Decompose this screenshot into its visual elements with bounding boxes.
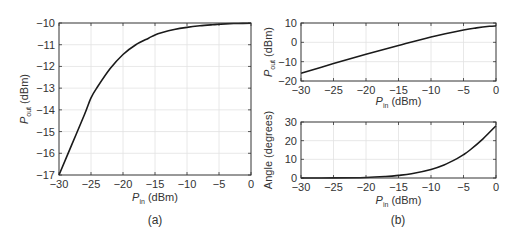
x-tick-label: −5 xyxy=(457,181,470,193)
y-tick-label: −14 xyxy=(36,104,55,116)
x-tick-label: −25 xyxy=(82,178,101,190)
y-tick-label: 30 xyxy=(285,116,297,128)
y-tick-label: 20 xyxy=(285,135,297,147)
y-tick-label: −16 xyxy=(36,147,55,159)
x-tick-label: −15 xyxy=(389,181,408,193)
x-tick-label: −15 xyxy=(146,178,165,190)
x-tick-label: −5 xyxy=(213,178,226,190)
x-tick-label: −20 xyxy=(114,178,133,190)
y-tick-label: 0 xyxy=(291,36,297,48)
y-tick-label: −12 xyxy=(36,60,55,72)
x-tick-label: −5 xyxy=(457,84,470,96)
x-axis-label: Pin (dBm) xyxy=(376,95,422,109)
y-tick-label: −11 xyxy=(37,39,55,51)
y-tick-label: 10 xyxy=(285,153,297,165)
chart-b-top: −30−25−20−15−10−50−20−10010Pin (dBm)Pout… xyxy=(262,17,499,109)
y-tick-label: −13 xyxy=(36,82,55,94)
x-tick-label: 0 xyxy=(248,178,254,190)
chart-b-bottom: −30−25−20−15−10−500102030Pin (dBm)Angle … xyxy=(262,111,499,227)
caption-b: (b) xyxy=(391,213,406,227)
x-axis-label: Pin (dBm) xyxy=(132,191,178,205)
y-axis-label: Pout (dBm) xyxy=(262,27,276,77)
x-tick-label: −10 xyxy=(422,181,441,193)
figure: −30−25−20−15−10−50−17−16−15−14−13−12−11−… xyxy=(0,0,516,240)
x-tick-label: 0 xyxy=(493,181,499,193)
y-tick-label: −20 xyxy=(278,75,297,87)
y-tick-label: −10 xyxy=(278,56,297,68)
x-tick-label: −10 xyxy=(422,84,441,96)
x-tick-label: −20 xyxy=(357,181,376,193)
y-tick-label: −15 xyxy=(36,126,55,138)
y-tick-label: 0 xyxy=(291,172,297,184)
y-tick-label: −10 xyxy=(36,17,55,29)
y-axis-label: Angle (degrees) xyxy=(262,111,274,189)
x-tick-label: −20 xyxy=(357,84,376,96)
chart-a: −30−25−20−15−10−50−17−16−15−14−13−12−11−… xyxy=(18,17,254,227)
y-axis-label: Pout (dBm) xyxy=(18,74,32,124)
x-tick-label: −25 xyxy=(324,181,343,193)
x-tick-label: 0 xyxy=(493,84,499,96)
y-tick-label: 10 xyxy=(285,17,297,29)
x-axis-label: Pin (dBm) xyxy=(376,194,422,208)
x-tick-label: −25 xyxy=(324,84,343,96)
y-tick-label: −17 xyxy=(36,169,55,181)
caption-a: (a) xyxy=(148,213,163,227)
x-tick-label: −10 xyxy=(178,178,197,190)
